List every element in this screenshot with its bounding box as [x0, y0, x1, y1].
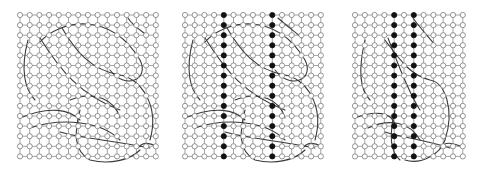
empty-node: [352, 93, 357, 98]
empty-node: [27, 43, 32, 48]
empty-node: [460, 33, 465, 38]
empty-node: [124, 23, 129, 28]
empty-node: [202, 12, 207, 17]
empty-node: [134, 113, 139, 118]
empty-node: [202, 83, 207, 88]
empty-node: [421, 23, 426, 28]
empty-node: [153, 12, 158, 17]
filled-node: [392, 83, 397, 88]
empty-node: [182, 33, 187, 38]
empty-node: [450, 53, 455, 58]
filled-node: [221, 103, 226, 108]
empty-node: [450, 33, 455, 38]
empty-node: [182, 144, 187, 149]
empty-node: [231, 53, 236, 58]
empty-node: [231, 124, 236, 129]
empty-node: [182, 154, 187, 159]
empty-node: [56, 33, 61, 38]
empty-node: [105, 33, 110, 38]
empty-node: [421, 73, 426, 78]
empty-node: [76, 43, 81, 48]
empty-node: [66, 134, 71, 139]
empty-node: [17, 73, 22, 78]
empty-node: [95, 144, 100, 149]
empty-node: [105, 113, 110, 118]
empty-node: [56, 73, 61, 78]
empty-node: [318, 23, 323, 28]
empty-node: [460, 113, 465, 118]
empty-node: [231, 12, 236, 17]
empty-node: [460, 83, 465, 88]
empty-node: [182, 43, 187, 48]
empty-node: [124, 63, 129, 68]
empty-node: [241, 63, 246, 68]
empty-node: [202, 63, 207, 68]
empty-node: [241, 124, 246, 129]
empty-node: [47, 63, 52, 68]
empty-node: [37, 83, 42, 88]
empty-node: [37, 103, 42, 108]
empty-node: [401, 83, 406, 88]
empty-node: [250, 124, 255, 129]
empty-node: [76, 144, 81, 149]
empty-node: [37, 134, 42, 139]
empty-node: [182, 103, 187, 108]
empty-node: [260, 73, 265, 78]
empty-node: [279, 53, 284, 58]
empty-node: [212, 53, 217, 58]
empty-node: [299, 83, 304, 88]
empty-node: [144, 154, 149, 159]
empty-node: [202, 33, 207, 38]
empty-node: [289, 134, 294, 139]
empty-node: [382, 23, 387, 28]
filled-node: [270, 144, 275, 149]
empty-node: [114, 103, 119, 108]
empty-node: [431, 124, 436, 129]
filled-node: [411, 73, 416, 78]
empty-node: [401, 73, 406, 78]
empty-node: [134, 53, 139, 58]
empty-node: [318, 33, 323, 38]
empty-node: [279, 63, 284, 68]
empty-node: [431, 63, 436, 68]
empty-node: [441, 154, 446, 159]
empty-node: [401, 23, 406, 28]
empty-node: [202, 124, 207, 129]
empty-node: [85, 63, 90, 68]
filled-node: [270, 93, 275, 98]
empty-node: [441, 43, 446, 48]
empty-node: [318, 43, 323, 48]
empty-node: [47, 33, 52, 38]
empty-node: [105, 43, 110, 48]
empty-node: [260, 93, 265, 98]
filled-node: [411, 154, 416, 159]
empty-node: [66, 53, 71, 58]
empty-node: [382, 134, 387, 139]
empty-node: [66, 12, 71, 17]
filled-node: [221, 124, 226, 129]
empty-node: [17, 124, 22, 129]
empty-node: [144, 73, 149, 78]
empty-node: [309, 103, 314, 108]
empty-node: [144, 53, 149, 58]
empty-node: [47, 73, 52, 78]
empty-node: [153, 113, 158, 118]
empty-node: [134, 83, 139, 88]
empty-node: [37, 12, 42, 17]
empty-node: [144, 63, 149, 68]
empty-node: [421, 43, 426, 48]
empty-node: [85, 134, 90, 139]
empty-node: [460, 12, 465, 17]
empty-node: [382, 12, 387, 17]
empty-node: [153, 103, 158, 108]
empty-node: [382, 93, 387, 98]
empty-node: [95, 43, 100, 48]
empty-node: [212, 124, 217, 129]
empty-node: [17, 103, 22, 108]
empty-node: [144, 23, 149, 28]
empty-node: [372, 63, 377, 68]
empty-node: [202, 23, 207, 28]
empty-node: [289, 73, 294, 78]
empty-node: [17, 33, 22, 38]
empty-node: [212, 144, 217, 149]
